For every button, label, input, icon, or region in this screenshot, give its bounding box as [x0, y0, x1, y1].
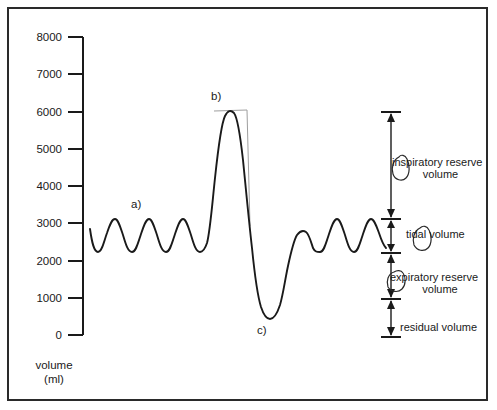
irv-arrowhead-top	[387, 113, 395, 122]
spirogram-figure: 8000 7000 6000 5000 4000 3000 2000 1000 …	[0, 0, 497, 410]
curve-label-b: b)	[211, 90, 221, 102]
y-tick-label-6000: 6000	[18, 106, 62, 118]
spirogram-curve	[90, 111, 386, 319]
spirogram-drawing	[0, 0, 497, 410]
volume-bracket-group	[381, 112, 401, 337]
rv-arrowhead-top	[387, 300, 395, 309]
y-tick-label-1000: 1000	[18, 292, 62, 304]
curve-label-a: a)	[131, 198, 141, 210]
label-inspiratory-reserve-volume-line2: volume	[392, 168, 489, 181]
y-tick-label-0: 0	[18, 329, 62, 341]
y-tick-label-5000: 5000	[18, 143, 62, 155]
label-inspiratory-reserve-volume-line1: inspiratory reserve	[392, 156, 482, 169]
erv-arrowhead-top	[387, 254, 395, 263]
tv-arrowhead-top	[387, 220, 395, 228]
y-tick-label-3000: 3000	[18, 217, 62, 229]
label-tidal-volume: tidal volume	[406, 228, 465, 241]
tv-arrowhead-bottom	[387, 244, 395, 252]
rv-arrowhead-bottom	[387, 327, 395, 336]
y-tick-label-4000: 4000	[18, 180, 62, 192]
y-tick-label-8000: 8000	[18, 31, 62, 43]
label-expiratory-reserve-volume-line1: expiratory reserve	[390, 271, 478, 284]
label-residual-volume: residual volume	[400, 321, 477, 334]
y-axis-title-line2: (ml)	[9, 372, 99, 386]
y-axis-title-line1: volume	[9, 358, 99, 372]
label-expiratory-reserve-volume-line2: volume	[390, 283, 490, 296]
y-tick-label-7000: 7000	[18, 68, 62, 80]
curve-label-c: c)	[257, 324, 267, 336]
y-tick-label-2000: 2000	[18, 255, 62, 267]
irv-arrowhead-bottom	[387, 209, 395, 218]
y-axis	[68, 37, 83, 335]
